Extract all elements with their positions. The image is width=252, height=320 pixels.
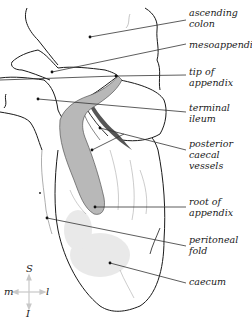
peritoneal-fold-shading	[64, 210, 130, 277]
appendix-shape	[60, 76, 122, 214]
label-terminal-ileum: terminal ileum	[189, 102, 230, 124]
compass-medial: m	[4, 287, 13, 297]
label-ascending-colon: ascending colon	[189, 7, 238, 29]
label-posterior-caecal-vessels: posterior caecal vessels	[189, 138, 233, 171]
orientation-compass-arrows	[13, 275, 45, 309]
label-root-of-appendix: root of appendix	[189, 196, 233, 218]
compass-inferior: I	[26, 309, 30, 319]
compass-superior: S	[26, 264, 33, 274]
compass-lateral: l	[46, 287, 49, 297]
label-caecum: caecum	[189, 276, 226, 287]
caecum-shape	[41, 138, 164, 311]
label-mesoappendix: mesoappendix	[189, 39, 252, 50]
label-tip-of-appendix: tip of appendix	[189, 66, 233, 88]
mesoappendix-shape	[11, 50, 118, 96]
label-peritoneal-fold: peritoneal fold	[189, 234, 238, 256]
ascending-colon-shape	[25, 8, 160, 90]
